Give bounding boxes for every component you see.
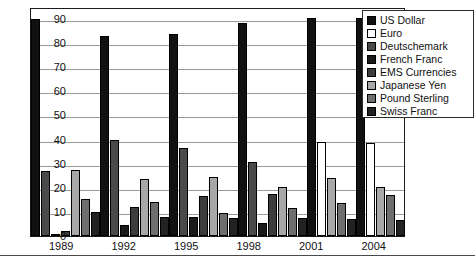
bar — [31, 19, 40, 236]
bar — [91, 212, 100, 236]
bar — [169, 34, 178, 236]
bar — [110, 140, 119, 236]
bar — [258, 223, 267, 236]
bar — [140, 179, 149, 236]
y-axis-tick-label: 50 — [40, 110, 66, 121]
legend-item-japanese-yen[interactable]: Japanese Yen — [367, 79, 469, 92]
bar — [337, 203, 346, 236]
bar — [41, 171, 50, 236]
bar-groups — [31, 9, 404, 236]
x-axis-tick-label: 1995 — [155, 240, 217, 252]
legend-swatch-icon — [367, 16, 376, 25]
legend-item-french-franc[interactable]: French Franc — [367, 53, 469, 66]
bar — [130, 207, 139, 236]
legend-item-euro[interactable]: Euro — [367, 27, 469, 40]
legend-swatch-icon — [367, 107, 376, 116]
bar — [229, 218, 238, 236]
bar — [248, 162, 257, 236]
legend-item-label: US Dollar — [380, 15, 425, 26]
bar — [199, 196, 208, 236]
bar — [209, 177, 218, 236]
legend-item-label: EMS Currencies — [380, 67, 456, 78]
bar — [100, 36, 109, 236]
legend-item-label: Japanese Yen — [380, 80, 446, 91]
legend-swatch-icon — [367, 42, 376, 51]
y-axis-tick-label: 20 — [40, 183, 66, 194]
y-axis-tick-label: 10 — [40, 207, 66, 218]
bar — [366, 143, 375, 236]
chart-figure: 0102030405060708090 19891992199519982001… — [0, 0, 475, 260]
bar — [160, 217, 169, 236]
legend-item-label: Deutschemark — [380, 41, 448, 52]
bar — [189, 217, 198, 236]
plot-area — [30, 8, 405, 237]
chart-legend: US DollarEuroDeutschemarkFrench FrancEMS… — [362, 10, 474, 118]
y-axis-tick-label: 80 — [40, 38, 66, 49]
footer-rule — [0, 255, 475, 256]
bar — [386, 195, 395, 236]
legend-swatch-icon — [367, 68, 376, 77]
bar — [396, 220, 405, 236]
legend-item-label: Pound Sterling — [380, 93, 449, 104]
bar — [179, 148, 188, 236]
y-axis-tick-label: 30 — [40, 159, 66, 170]
y-axis-tick-label: 60 — [40, 86, 66, 97]
x-axis-labels: 198919921995199820012004 — [30, 240, 405, 256]
y-axis-tick-label: 40 — [40, 135, 66, 146]
bar — [298, 218, 307, 236]
legend-swatch-icon — [367, 81, 376, 90]
bar — [376, 187, 385, 236]
y-axis-tick-label: 90 — [40, 14, 66, 25]
x-axis-tick-label: 1992 — [93, 240, 155, 252]
x-axis-tick-label: 2004 — [343, 240, 405, 252]
bar — [150, 202, 159, 236]
bar — [347, 219, 356, 236]
legend-item-deutschemark[interactable]: Deutschemark — [367, 40, 469, 53]
bar — [288, 208, 297, 236]
bar — [278, 187, 287, 236]
bar — [307, 18, 316, 236]
legend-item-label: Swiss Franc — [380, 106, 437, 117]
legend-item-label: Euro — [380, 28, 402, 39]
bar — [317, 142, 326, 236]
bar — [120, 225, 129, 236]
bar-group-1995 — [169, 9, 238, 236]
legend-item-ems-currencies[interactable]: EMS Currencies — [367, 66, 469, 79]
legend-swatch-icon — [367, 94, 376, 103]
x-axis-tick-label: 2001 — [280, 240, 342, 252]
bar — [268, 194, 277, 236]
legend-item-swiss-franc[interactable]: Swiss Franc — [367, 105, 469, 118]
legend-item-pound-sterling[interactable]: Pound Sterling — [367, 92, 469, 105]
x-axis-tick-label: 1998 — [218, 240, 280, 252]
legend-swatch-icon — [367, 55, 376, 64]
bar — [71, 170, 80, 236]
y-axis-tick-label: 70 — [40, 62, 66, 73]
bar — [81, 199, 90, 236]
legend-item-label: French Franc — [380, 54, 442, 65]
bar — [327, 178, 336, 236]
bar-group-2001 — [307, 9, 356, 236]
bar — [219, 213, 228, 236]
bar-group-1998 — [238, 9, 307, 236]
x-axis-tick-label: 1989 — [30, 240, 92, 252]
bar — [238, 23, 247, 236]
legend-item-us-dollar[interactable]: US Dollar — [367, 14, 469, 27]
legend-swatch-icon — [367, 29, 376, 38]
bar-group-1992 — [100, 9, 169, 236]
